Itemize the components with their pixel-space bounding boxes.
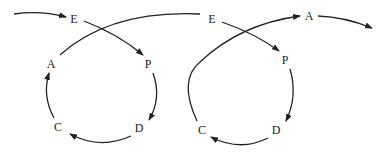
edge-e1-p1 xyxy=(84,21,143,55)
edge-c1-a1 xyxy=(46,73,54,118)
node-p1: P xyxy=(145,58,152,70)
node-d1: D xyxy=(135,122,144,134)
node-d2: D xyxy=(272,124,281,136)
edge-p1-d1 xyxy=(149,73,157,120)
node-a1: A xyxy=(47,58,56,70)
node-e1: E xyxy=(70,13,77,25)
edge-d2-c2 xyxy=(211,137,268,145)
node-a2: A xyxy=(305,10,314,22)
node-c1: C xyxy=(54,121,62,133)
node-e2: E xyxy=(208,13,215,25)
edge-p2-d2 xyxy=(286,69,293,121)
cycle-diagram: E P D C A E P D C A xyxy=(0,0,384,153)
edge-e2-p2 xyxy=(222,22,279,51)
edge-start-e1 xyxy=(14,13,66,17)
edge-c2-a2 xyxy=(188,16,300,121)
edge-a1-e2 xyxy=(60,14,200,55)
edge-a2-end xyxy=(318,16,372,28)
node-c2: C xyxy=(198,124,206,136)
edge-d1-c1 xyxy=(70,134,131,143)
node-p2: P xyxy=(282,54,289,66)
